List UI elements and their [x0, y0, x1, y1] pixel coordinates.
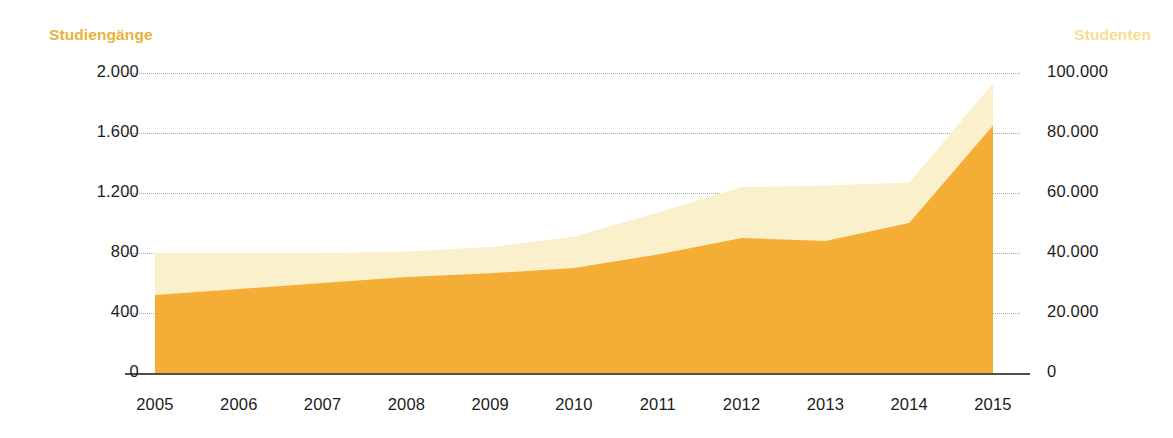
right-axis-tick-label: 40.000 [1047, 242, 1099, 261]
right-axis-tick-label: 60.000 [1047, 182, 1099, 201]
right-axis-tick-label: 20.000 [1047, 302, 1099, 321]
x-axis-tick-label: 2011 [640, 395, 676, 414]
x-axis-tick-label: 2015 [974, 395, 1012, 414]
x-axis-tick-label: 2014 [890, 395, 928, 414]
x-axis-tick-label: 2006 [220, 395, 258, 414]
right-axis-tick-label: 100.000 [1047, 62, 1108, 81]
left-axis-tick-label: 1.200 [97, 182, 139, 201]
left-axis-tick-label: 0 [130, 362, 139, 381]
x-axis-tick-label: 2005 [136, 395, 174, 414]
area-series-layer [155, 73, 993, 373]
right-axis-tick-label: 80.000 [1047, 122, 1099, 141]
plot-area [155, 73, 993, 373]
left-axis-tick-label: 800 [111, 242, 139, 261]
right-axis-title: Studenten [1074, 26, 1151, 44]
x-axis-tick-label: 2012 [723, 395, 761, 414]
x-axis-tick-label: 2008 [388, 395, 426, 414]
x-axis-tick-label: 2007 [304, 395, 342, 414]
right-axis-tick-label: 0 [1047, 362, 1056, 381]
x-axis-line [125, 373, 1030, 375]
x-axis-tick-label: 2010 [555, 395, 593, 414]
chart-page: Studiengänge Studenten 04008001.2001.600… [0, 0, 1173, 438]
left-axis-tick-label: 2.000 [97, 62, 139, 81]
x-axis-tick-label: 2009 [471, 395, 509, 414]
left-axis-tick-label: 400 [111, 302, 139, 321]
x-axis-tick-label: 2013 [807, 395, 845, 414]
left-axis-title: Studiengänge [49, 26, 153, 44]
left-axis-tick-label: 1.600 [97, 122, 139, 141]
